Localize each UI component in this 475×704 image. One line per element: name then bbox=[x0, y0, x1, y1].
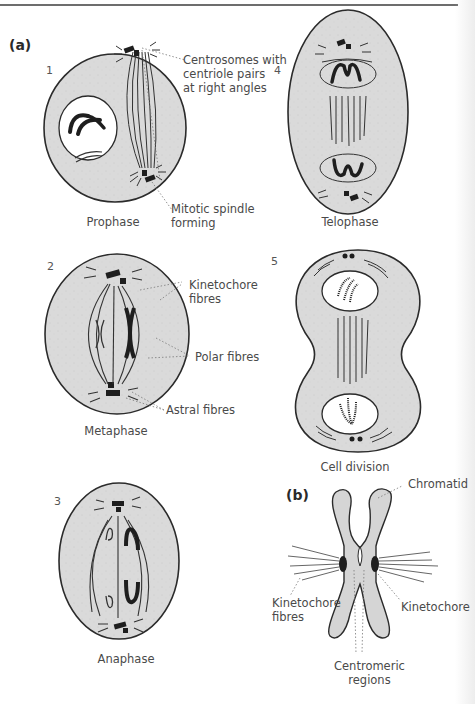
stage-number-1: 1 bbox=[46, 64, 53, 77]
stage-number-3: 3 bbox=[54, 495, 61, 508]
telophase-cell bbox=[288, 10, 408, 214]
metaphase-cell bbox=[45, 254, 190, 414]
label-kinetochore-fibres: Kinetochore fibres bbox=[189, 278, 258, 306]
caption-cell-division: Cell division bbox=[320, 460, 389, 474]
chromosome-detail bbox=[288, 486, 438, 654]
caption-prophase: Prophase bbox=[87, 215, 140, 229]
caption-anaphase: Anaphase bbox=[98, 652, 155, 666]
stage-number-5: 5 bbox=[271, 255, 278, 268]
label-polar-fibres: Polar fibres bbox=[195, 350, 259, 364]
anaphase-cell bbox=[59, 483, 179, 639]
label-kinetochore: Kinetochore bbox=[401, 600, 470, 614]
caption-metaphase: Metaphase bbox=[84, 424, 147, 438]
caption-telophase: Telophase bbox=[321, 215, 378, 229]
prophase-cell bbox=[44, 42, 186, 210]
panel-label-a: (a) bbox=[9, 37, 31, 53]
label-chromatid: Chromatid bbox=[408, 477, 468, 491]
nucleus bbox=[59, 96, 117, 160]
cell-division bbox=[295, 250, 420, 452]
label-centromeric-regions: Centromeric regions bbox=[334, 659, 405, 687]
label-centrosomes: Centrosomes with centriole pairs at righ… bbox=[183, 53, 287, 95]
panel-label-b: (b) bbox=[286, 487, 309, 503]
label-kinetochore-fibres-b: Kinetochore fibres bbox=[272, 596, 341, 624]
stage-number-2: 2 bbox=[47, 260, 54, 273]
label-astral-fibres: Astral fibres bbox=[166, 403, 235, 417]
label-mitotic-spindle: Mitotic spindle forming bbox=[171, 202, 255, 230]
